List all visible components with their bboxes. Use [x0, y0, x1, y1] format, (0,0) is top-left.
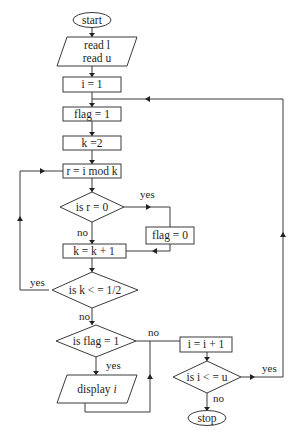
k-no-label: no [79, 310, 91, 322]
decision-r-zero: is r = 0 [60, 192, 124, 222]
read-l-label: read l [84, 39, 110, 51]
set-flag-zero-process: flag = 0 [146, 227, 194, 244]
init-flag-label: flag = 1 [74, 108, 110, 121]
inc-k-process: k = k + 1 [63, 244, 126, 258]
display-output: display i [57, 375, 137, 403]
compute-r-label: r = i mod k [66, 165, 117, 177]
i-yes-label: yes [262, 362, 277, 374]
flowchart: start read l read u i = 1 flag = 1 k =2 … [0, 0, 300, 435]
start-terminal: start [73, 13, 111, 28]
flag-no-label: no [148, 326, 160, 338]
r-yes-label: yes [140, 188, 155, 200]
display-var: i [113, 383, 116, 395]
read-u-label: read u [83, 52, 112, 64]
display-label: display i [77, 383, 116, 396]
decision-i: is i < = u [173, 361, 241, 393]
init-flag-process: flag = 1 [63, 107, 121, 121]
set-flag-zero-label: flag = 0 [152, 229, 188, 242]
stop-terminal: stop [188, 411, 226, 426]
display-prefix: display [77, 383, 113, 396]
connectors [20, 27, 283, 412]
decision-k-label: is k < = 1/2 [69, 284, 122, 296]
arrowheads [17, 33, 286, 411]
decision-k: is k < = 1/2 [52, 272, 138, 308]
read-input: read l read u [57, 37, 137, 66]
inc-k-label: k = k + 1 [73, 245, 115, 257]
stop-label: stop [197, 412, 216, 425]
init-i-process: i = 1 [63, 77, 121, 92]
compute-r-process: r = i mod k [63, 164, 121, 178]
init-k-process: k =2 [63, 136, 121, 150]
inc-i-process: i = i + 1 [180, 337, 232, 352]
decision-r-label: is r = 0 [76, 201, 109, 213]
decision-i-label: is i < = u [186, 371, 227, 383]
k-yes-label: yes [30, 276, 45, 288]
start-label: start [82, 14, 103, 26]
decision-flag: is flag = 1 [56, 325, 136, 357]
i-no-label: no [213, 392, 225, 404]
inc-i-label: i = i + 1 [188, 338, 225, 350]
flag-yes-label: yes [106, 359, 121, 371]
r-no-label: no [77, 226, 89, 238]
decision-flag-label: is flag = 1 [73, 335, 120, 348]
init-i-label: i = 1 [81, 78, 102, 90]
init-k-label: k =2 [82, 137, 103, 149]
